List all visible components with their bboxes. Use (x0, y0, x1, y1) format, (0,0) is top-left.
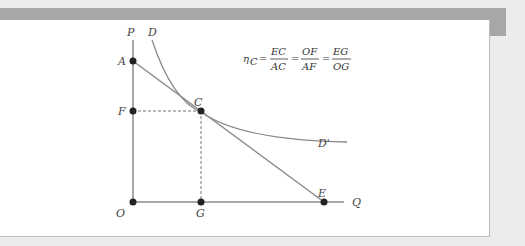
f3-den: OG (333, 61, 349, 72)
tangent-line (133, 61, 324, 202)
formula-eq3: = (322, 53, 330, 64)
y-axis-label: P (126, 26, 135, 39)
f1-den: AC (270, 61, 286, 72)
formula-eta: η (243, 53, 249, 64)
label-e: E (317, 187, 326, 200)
f2-den: AF (301, 61, 317, 72)
point-f (130, 108, 137, 115)
label-g: G (196, 207, 205, 220)
curve-label-d: D (147, 26, 157, 39)
formula-eq2: = (291, 53, 299, 64)
x-axis-label: Q (352, 196, 361, 209)
label-o: O (116, 207, 125, 220)
label-c: C (194, 96, 203, 109)
elasticity-formula: η C = EC AC = OF AF = EG OG (243, 46, 351, 72)
formula-subscript: C (250, 56, 258, 67)
elasticity-diagram: P D A F C D' E Q O G η C = EC AC = OF AF… (0, 0, 525, 246)
f2-num: OF (302, 46, 318, 57)
point-a (130, 58, 137, 65)
f1-num: EC (270, 46, 286, 57)
label-f: F (117, 105, 126, 118)
label-a: A (117, 55, 126, 68)
point-g (198, 199, 205, 206)
curve-label-d-prime: D' (317, 137, 330, 150)
point-o (130, 199, 137, 206)
formula-eq1: = (259, 53, 267, 64)
f3-num: EG (332, 46, 348, 57)
